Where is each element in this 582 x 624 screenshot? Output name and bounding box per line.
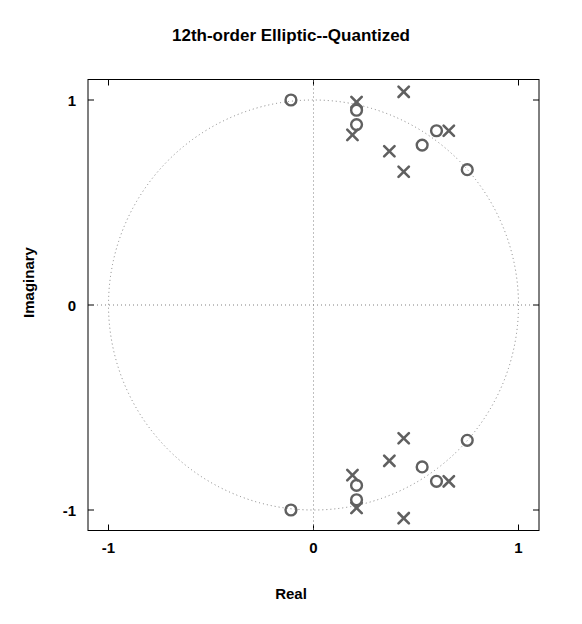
zero-marker bbox=[351, 480, 362, 491]
zero-marker bbox=[417, 462, 428, 473]
zero-marker bbox=[431, 125, 442, 136]
pole-marker bbox=[444, 476, 454, 486]
zero-marker bbox=[417, 140, 428, 151]
zero-marker bbox=[462, 435, 473, 446]
zero-marker bbox=[286, 505, 297, 516]
pole-marker bbox=[384, 146, 394, 156]
zero-marker bbox=[462, 164, 473, 175]
zero-marker bbox=[431, 476, 442, 487]
pole-marker bbox=[399, 433, 409, 443]
pole-marker bbox=[399, 87, 409, 97]
zero-marker bbox=[351, 119, 362, 130]
plot-canvas bbox=[0, 0, 582, 624]
pole-marker bbox=[347, 470, 357, 480]
pole-zero-plot-figure: 12th-order Elliptic--Quantized Imaginary… bbox=[0, 0, 582, 624]
pole-marker bbox=[347, 130, 357, 140]
reference-geometry bbox=[89, 81, 538, 530]
pole-marker bbox=[444, 126, 454, 136]
pole-marker bbox=[399, 167, 409, 177]
pole-marker bbox=[399, 513, 409, 523]
pole-marker bbox=[384, 456, 394, 466]
zero-marker bbox=[286, 95, 297, 106]
